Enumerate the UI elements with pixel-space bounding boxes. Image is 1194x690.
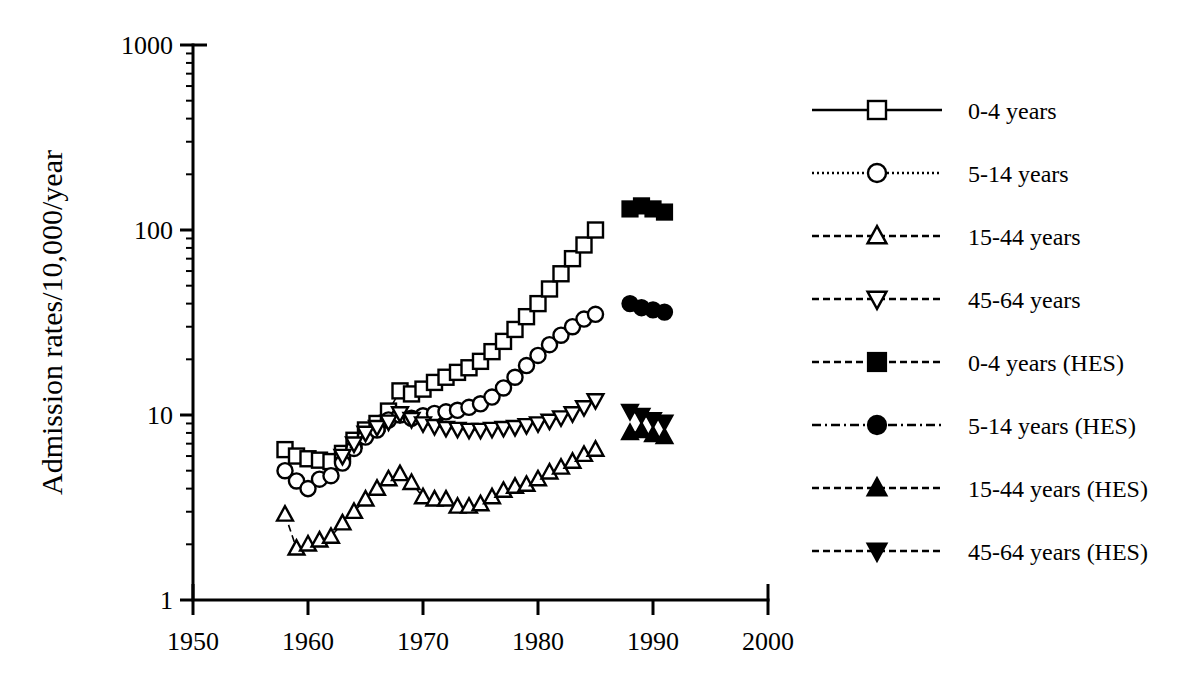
legend-item-2[interactable]: 15-44 years [812, 224, 1081, 250]
legend-label: 0-4 years [968, 98, 1057, 124]
y-tick-label-1: 1 [160, 586, 173, 615]
legend-label: 45-64 years [968, 287, 1081, 313]
data-point [657, 305, 672, 320]
data-point [588, 223, 603, 238]
legend-marker-filled-square [868, 353, 886, 371]
legend-marker-open-square [868, 101, 886, 119]
legend-label: 5-14 years [968, 161, 1069, 187]
data-point [577, 237, 592, 252]
data-point [588, 307, 603, 322]
data-point [438, 491, 454, 505]
y-tick-label-100: 100 [134, 216, 173, 245]
x-tick-label-1990: 1990 [627, 627, 679, 656]
y-tick-label-10: 10 [147, 401, 173, 430]
x-tick-label-1950: 1950 [167, 627, 219, 656]
data-point [531, 296, 546, 311]
data-point [657, 205, 672, 220]
legend-layer: 0-4 years5-14 years15-44 years45-64 year… [812, 98, 1148, 565]
series-5-14-years-hes- [622, 296, 672, 320]
legend-label: 45-64 years (HES) [968, 539, 1148, 565]
x-tick-label-1970: 1970 [397, 627, 449, 656]
x-tick-label-2000: 2000 [742, 627, 794, 656]
data-point [588, 441, 604, 455]
data-point [323, 468, 338, 483]
legend-label: 5-14 years (HES) [968, 413, 1136, 439]
legend-item-6[interactable]: 15-44 years (HES) [812, 476, 1148, 502]
legend-item-5[interactable]: 5-14 years (HES) [812, 413, 1136, 439]
legend-item-4[interactable]: 0-4 years (HES) [812, 350, 1124, 376]
series-layer [277, 198, 672, 554]
data-point [507, 370, 522, 385]
legend-item-3[interactable]: 45-64 years [812, 287, 1081, 313]
data-point [657, 416, 673, 430]
data-point [392, 466, 408, 480]
legend-label: 0-4 years (HES) [968, 350, 1124, 376]
data-point [277, 506, 293, 520]
legend-item-0[interactable]: 0-4 years [812, 98, 1057, 124]
legend-item-7[interactable]: 45-64 years (HES) [812, 539, 1148, 565]
x-tick-label-1960: 1960 [282, 627, 334, 656]
line-chart: 1101001000195019601970198019902000Admiss… [0, 0, 1194, 690]
series-0-4-years-hes- [623, 198, 673, 219]
y-axis-title: Admission rates/10,000/year [35, 150, 68, 495]
legend-label: 15-44 years [968, 224, 1081, 250]
y-tick-label-1000: 1000 [121, 31, 173, 60]
data-point [542, 281, 557, 296]
legend-label: 15-44 years (HES) [968, 476, 1148, 502]
legend-marker-open-circle [868, 164, 886, 182]
figure-container: 1101001000195019601970198019902000Admiss… [0, 0, 1194, 690]
legend-marker-filled-circle [868, 416, 886, 434]
x-tick-label-1980: 1980 [512, 627, 564, 656]
data-point [554, 266, 569, 281]
axis-layer: 1101001000195019601970198019902000Admiss… [35, 31, 794, 656]
legend-item-1[interactable]: 5-14 years [812, 161, 1069, 187]
